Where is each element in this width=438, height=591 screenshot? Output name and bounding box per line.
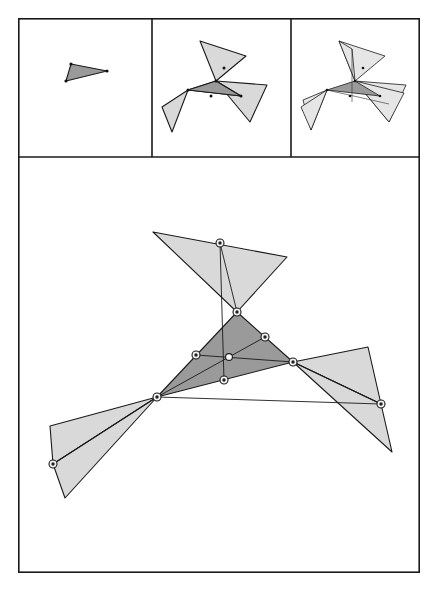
vertex-dot xyxy=(105,69,108,72)
vertex-dot xyxy=(64,79,67,82)
vertex-dot xyxy=(326,89,329,92)
node-midpoint-top-right xyxy=(261,333,269,341)
vertex-dot xyxy=(379,95,382,98)
node-central-top xyxy=(233,308,241,316)
vertex-dot xyxy=(354,80,357,83)
vertex-dot xyxy=(187,89,190,92)
vertex-dot xyxy=(69,62,72,65)
node-midpoint-left-top xyxy=(192,351,200,359)
node-top-apex xyxy=(216,239,224,247)
vertex-dot xyxy=(362,67,365,70)
node-central-left xyxy=(153,393,161,401)
vertex-dot xyxy=(210,95,213,98)
vertex-dot xyxy=(349,95,352,98)
vertex-dot xyxy=(215,80,218,83)
seed-triangle xyxy=(66,64,107,81)
panel-step-1-seed-triangle xyxy=(64,62,108,82)
node-centroid xyxy=(226,354,233,361)
vertex-dot xyxy=(240,95,243,98)
geometric-diagram xyxy=(0,0,438,591)
node-central-right xyxy=(289,358,297,366)
node-left-outer xyxy=(49,460,57,468)
reflected-left-triangle xyxy=(162,90,188,132)
node-right-outer xyxy=(377,400,385,408)
reflected-top-triangle xyxy=(200,41,246,81)
node-midpoint-left-right xyxy=(220,376,228,384)
figure-root xyxy=(0,0,438,591)
panel-step-3-second-reflections xyxy=(301,41,406,130)
vertex-dot xyxy=(223,67,226,70)
panel-main-detail-view xyxy=(49,232,392,498)
panel-step-2-first-reflections xyxy=(162,41,267,132)
